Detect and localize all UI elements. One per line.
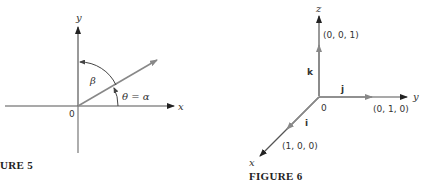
j-point-label: (0, 1, 0) [373, 104, 409, 114]
theta-label: θ = α [122, 91, 150, 102]
k-point-label: (0, 0, 1) [323, 30, 359, 40]
z-axis-label: z [315, 3, 322, 14]
figure-6: z y x 0 k j i (0, 0, 1) (0, 1, 0) (1, 0,… [249, 3, 419, 182]
x-axis-label: x [178, 101, 184, 112]
origin-label: 0 [321, 103, 327, 113]
x-axis-label: x [249, 157, 255, 168]
figure-5-caption: URE 5 [0, 159, 33, 171]
figure-6-caption: FIGURE 6 [249, 170, 303, 182]
k-label: k [307, 67, 314, 77]
origin-label: 0 [69, 109, 75, 119]
beta-arc [80, 62, 116, 85]
figures-canvas: y x 0 β θ = α URE 5 z y x 0 k j i (0, 0,… [0, 0, 422, 182]
i-vector [287, 97, 319, 129]
j-label: j [340, 84, 344, 94]
i-label: i [305, 118, 308, 128]
i-point-label: (1, 0, 0) [282, 141, 318, 151]
y-axis-label: y [75, 12, 82, 23]
beta-label: β [89, 75, 96, 86]
theta-arc [114, 88, 118, 106]
y-axis-label: y [412, 91, 419, 102]
figure-5: y x 0 β θ = α URE 5 [0, 12, 184, 171]
